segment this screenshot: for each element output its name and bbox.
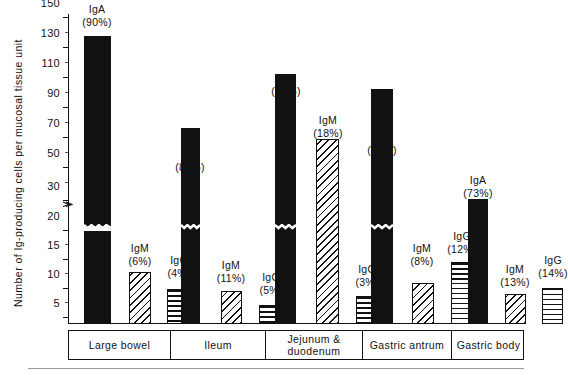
tick-mark-minor-100 — [65, 92, 69, 93]
tick-mark-minor-120 — [65, 62, 69, 63]
annotation-gastric-body-iga: IgA (73%) — [463, 174, 492, 199]
category-gastric-body: Gastric body — [452, 331, 525, 359]
tick-mark-minor-12 — [65, 273, 69, 274]
tick-mark-minor-17 — [65, 244, 69, 245]
annotation-large-bowel-iga: IgA (90%) — [82, 3, 111, 28]
annotation-ig-pct: (79%) — [271, 85, 300, 97]
annotation-ig-pct: (11%) — [217, 272, 245, 284]
y-tick-5: 5 — [54, 297, 60, 309]
y-axis-tick-labels: 150 130 110 90 70 50 30 20 15 10 5 — [0, 0, 68, 310]
y-tick-50: 50 — [47, 147, 60, 159]
tick-mark-minor-80 — [65, 122, 69, 123]
tick-mark-15 — [63, 259, 68, 260]
annotation-jejunum-duodenum-igm: IgM (18%) — [313, 114, 342, 139]
tick-mark-minor-40 — [65, 182, 69, 183]
tick-mark-70 — [63, 137, 68, 138]
annotation-ig-pct: (14%) — [538, 267, 567, 279]
category-line-2: duodenum — [288, 345, 341, 357]
annotation-ig-pct: (73%) — [463, 187, 492, 199]
bar-gastric-body-igg — [542, 288, 563, 324]
annotation-ig-name: IgG — [544, 254, 562, 266]
bar-jejunum-duodenum-iga — [275, 74, 296, 324]
annotation-ig-name: IgA — [470, 174, 487, 186]
bottom-rule — [28, 368, 524, 369]
annotation-ig-name: IgM — [222, 259, 240, 271]
annotation-ig-name: IgM — [506, 263, 524, 275]
tick-mark-110 — [63, 77, 68, 78]
bar-gastric-antrum-igm — [412, 283, 434, 324]
y-tick-90: 90 — [47, 87, 60, 99]
y-tick-70: 70 — [47, 117, 60, 129]
annotation-gastric-antrum-igm: IgM (8%) — [410, 242, 433, 267]
annotation-large-bowel-igm: IgM (6%) — [128, 242, 151, 267]
bar-large-bowel-iga — [84, 36, 111, 324]
bar-gastric-antrum-iga — [371, 89, 393, 324]
tick-mark-minor-140 — [65, 32, 69, 33]
annotation-ig-name: IgM — [319, 114, 337, 126]
annotation-ileum-igm: IgM (11%) — [217, 259, 245, 284]
annotation-ig-name: IgM — [413, 242, 431, 254]
tick-mark-130 — [63, 47, 68, 48]
annotation-ig-pct: (90%) — [82, 16, 111, 28]
y-tick-20: 20 — [47, 210, 60, 222]
bar-break-icon — [181, 224, 200, 231]
y-axis-line — [68, 14, 69, 324]
bar-ileum-igm — [221, 291, 242, 324]
bar-large-bowel-igm — [129, 272, 151, 324]
y-axis-break-icon — [62, 199, 75, 210]
annotation-ig-name: IgM — [131, 242, 149, 254]
y-tick-110: 110 — [42, 57, 60, 69]
tick-mark-150 — [63, 17, 68, 18]
category-axis-row: Large bowel Ileum Jejunum & duodenum Gas… — [68, 330, 524, 360]
annotation-gastric-antrum-iga: IgA (80%) — [367, 131, 396, 156]
category-ileum: Ileum — [171, 331, 266, 359]
bar-break-icon — [275, 224, 296, 231]
annotation-ig-pct: (84%) — [175, 161, 204, 173]
category-jejunum-duodenum: Jejunum & duodenum — [266, 331, 363, 359]
annotation-ig-name: IgA — [374, 131, 391, 143]
annotation-ig-pct: (13%) — [500, 276, 529, 288]
annotation-jejunum-duodenum-iga: IgA (79%) — [271, 72, 300, 97]
bar-break-icon — [84, 224, 111, 231]
annotation-ig-pct: (18%) — [313, 127, 342, 139]
plot-area: IgA (90%) IgM (6%) IgG (4%) — [68, 14, 524, 324]
category-line-1: Jejunum & — [287, 333, 340, 345]
annotation-ig-pct: (8%) — [410, 255, 433, 267]
annotation-ig-name: IgA — [89, 3, 106, 15]
annotation-gastric-body-igm: IgM (13%) — [500, 263, 529, 288]
tick-mark-50 — [63, 167, 68, 168]
category-large-bowel: Large bowel — [69, 331, 171, 359]
bar-gastric-body-igm — [505, 294, 526, 324]
tick-mark-10 — [63, 288, 68, 289]
tick-mark-5 — [63, 317, 68, 318]
y-tick-15: 15 — [47, 239, 60, 251]
tick-mark-90 — [63, 107, 68, 108]
annotation-ig-name: IgA — [278, 72, 295, 84]
annotation-ig-pct: (80%) — [367, 144, 396, 156]
annotation-gastric-body-igg: IgG (14%) — [538, 254, 567, 279]
bar-jejunum-duodenum-igm — [316, 139, 339, 324]
tick-mark-minor-7 — [65, 302, 69, 303]
y-tick-130: 130 — [41, 27, 60, 39]
category-gastric-antrum: Gastric antrum — [363, 331, 452, 359]
bar-break-icon — [371, 224, 393, 231]
annotation-ig-pct: (6%) — [128, 255, 151, 267]
y-tick-30: 30 — [47, 180, 60, 192]
bar-gastric-body-iga — [468, 199, 488, 324]
y-tick-10: 10 — [47, 268, 60, 280]
annotation-ig-name: IgA — [182, 148, 199, 160]
tick-mark-20 — [63, 230, 68, 231]
tick-mark-minor-60 — [65, 152, 69, 153]
annotation-ileum-iga: IgA (84%) — [175, 148, 204, 173]
y-tick-150: 150 — [41, 0, 60, 9]
